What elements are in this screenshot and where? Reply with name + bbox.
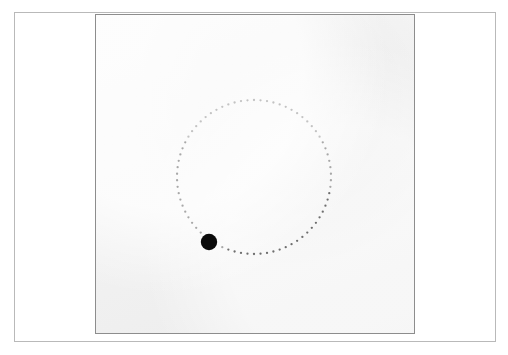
orbit-path-dot [184,141,186,143]
orbit-path-dot [259,99,261,101]
orbit-path-dot [324,147,326,149]
orbit-path-dot [246,253,248,255]
orbit-plot [0,0,508,355]
orbit-path-dot [326,153,328,155]
orbit-path-dot [204,116,206,118]
orbit-path-dot [330,179,332,181]
orbit-path-dot [240,252,242,254]
orbit-path-dot [178,160,180,162]
orbit-path-dot [176,179,178,181]
orbit-path-dot [200,231,202,233]
orbit-path-dot [233,101,235,103]
orbit-path-dot [181,205,183,207]
orbit-path-dot [240,100,242,102]
orbit-path-dot [318,216,320,218]
orbit-path-dot [330,173,332,175]
orbit-path-dot [306,231,308,233]
orbit-path-dot [329,186,331,188]
orbit-path-dot [221,106,223,108]
orbit-path-dot [279,248,281,250]
orbit-path-dot [272,250,274,252]
orbit-path-dot [176,173,178,175]
orbit-path-dot [187,135,189,137]
orbit-path-dot [329,166,331,168]
orbit-path-dot [322,141,324,143]
orbit-path-dot [311,227,313,229]
orbit-path-dot [215,109,217,111]
orbit-path-dot [259,253,261,255]
orbit-path-dot [318,135,320,137]
orbit-path-dot [178,192,180,194]
orbit-path-dot [184,211,186,213]
orbit-path-dot [227,248,229,250]
orbit-path-dot [176,166,178,168]
orbit-path-dot [195,227,197,229]
orbit-path-dot [328,160,330,162]
orbit-path-dot [191,130,193,132]
orbit-path-dot [227,103,229,105]
figure-canvas [0,0,508,355]
orbit-path-dot [296,240,298,242]
orbit-path-dot [272,101,274,103]
orbiting-particle [201,234,217,250]
orbit-path-dot [253,99,255,101]
orbit-path-dot [266,252,268,254]
orbit-path-dot [290,243,292,245]
orbit-path-dot [246,99,248,101]
orbit-path-dot [179,198,181,200]
orbit-path-dot [324,205,326,207]
orbit-path-dot [253,253,255,255]
orbit-path-dot [306,120,308,122]
orbit-path-dot [322,211,324,213]
orbit-path-dot [210,112,212,114]
orbit-path-dot [195,125,197,127]
orbit-path-dot [233,250,235,252]
orbit-path-dot [296,112,298,114]
orbit-path-dot [200,120,202,122]
orbit-path-dot [328,192,330,194]
orbit-path-dot [301,116,303,118]
orbit-path-dot [315,130,317,132]
orbit-path-dot [187,216,189,218]
orbit-path-dot [221,246,223,248]
orbit-path-dot [279,103,281,105]
orbit-path-dot [285,106,287,108]
orbit-path-dot [290,109,292,111]
orbit-path-dot [285,246,287,248]
orbit-path-dot [179,153,181,155]
orbit-path-dot [176,186,178,188]
orbit-path-dot [266,100,268,102]
orbit-path-dot [315,222,317,224]
orbit-path-dots [176,99,332,255]
orbit-path-dot [326,198,328,200]
orbit-path-dot [301,236,303,238]
orbit-path-dot [311,125,313,127]
orbit-path-dot [191,222,193,224]
orbit-path-dot [181,147,183,149]
